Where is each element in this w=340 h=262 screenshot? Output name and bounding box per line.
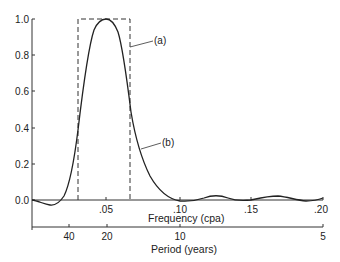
y-tick-labels: 0.0 0.2 0.4 0.6 0.8 1.0	[15, 14, 29, 206]
y-tick-label: 0.0	[15, 195, 29, 206]
period-tick-label: 40	[63, 231, 75, 242]
chart: 0.0 0.2 0.4 0.6 0.8 1.0 .05 .10 .15 .20 …	[0, 0, 340, 262]
period-axis-title: Period (years)	[151, 243, 217, 255]
period-tick-labels: 40 20 10 5	[63, 231, 326, 242]
annotation-a-leader	[130, 41, 153, 47]
y-tick-label: 0.6	[15, 86, 29, 97]
period-tick-label: 5	[320, 231, 326, 242]
x-tick-label: .20	[314, 204, 328, 215]
annotation-b-leader	[141, 143, 161, 149]
frequency-response-curve	[32, 19, 323, 205]
y-tick-label: 0.8	[15, 50, 29, 61]
y-tick-label: 0.4	[15, 123, 29, 134]
y-tick-label: 0.2	[15, 159, 29, 170]
period-tick-label: 20	[101, 231, 113, 242]
x-tick-label: .15	[244, 204, 258, 215]
period-tick-label: 10	[174, 231, 186, 242]
y-tick-label: 1.0	[15, 14, 29, 25]
annotation-a-label: (a)	[154, 35, 166, 46]
annotation-b-label: (b)	[162, 137, 174, 148]
ideal-filter-box	[78, 19, 130, 200]
x-tick-label: .05	[99, 204, 113, 215]
frequency-axis-title: Frequency (cpa)	[148, 212, 224, 224]
